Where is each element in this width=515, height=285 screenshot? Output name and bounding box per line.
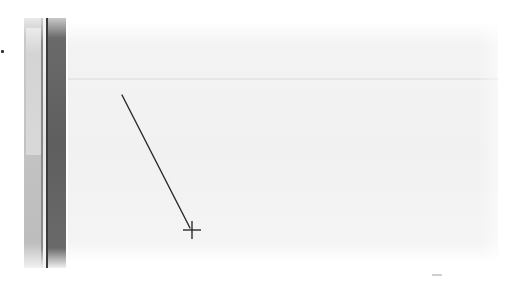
canvas-overlay bbox=[0, 0, 515, 285]
drawn-line[interactable] bbox=[122, 95, 190, 228]
faint-mark bbox=[432, 274, 442, 276]
crosshair-icon bbox=[183, 221, 201, 239]
screen bbox=[0, 0, 515, 285]
